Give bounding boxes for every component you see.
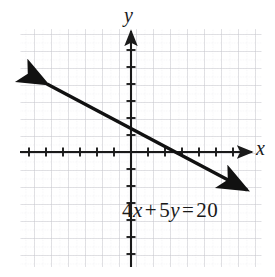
coordinate-plane-figure xyxy=(0,0,275,277)
grid-area xyxy=(21,29,262,267)
equation-var-y: y xyxy=(170,198,180,222)
equation-plus-sign: + xyxy=(143,198,159,222)
equation-coefficient-y: 5 xyxy=(159,198,170,222)
grid-pattern xyxy=(21,29,262,267)
equation-label: 4x+5y=20 xyxy=(122,198,218,223)
x-axis-label: x xyxy=(256,137,265,160)
y-axis-label: y xyxy=(124,4,133,27)
equation-constant: 20 xyxy=(196,198,218,222)
equation-equals-sign: = xyxy=(180,198,196,222)
equation-var-x: x xyxy=(133,198,143,222)
equation-coefficient-x: 4 xyxy=(122,198,133,222)
